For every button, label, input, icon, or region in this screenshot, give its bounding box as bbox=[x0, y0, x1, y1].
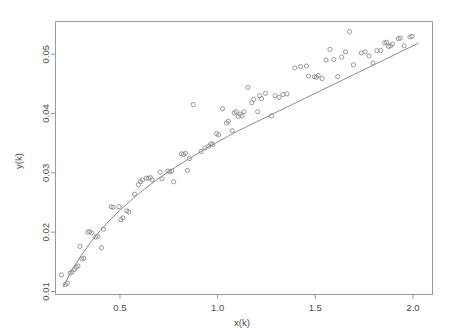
y-axis-title: y(k) bbox=[13, 153, 24, 169]
y-tick-label: 0.03 bbox=[40, 164, 51, 183]
x-axis-title: x(k) bbox=[234, 317, 250, 328]
x-tick-label: 0.5 bbox=[113, 302, 126, 313]
y-tick-label: 0.04 bbox=[40, 104, 51, 123]
x-tick-label: 2.0 bbox=[406, 302, 419, 313]
y-tick-label: 0.02 bbox=[40, 223, 51, 242]
y-tick-label: 0.05 bbox=[40, 45, 51, 64]
scatter-plot: 0.51.01.52.0 0.010.020.030.040.05 x(k) y… bbox=[0, 0, 454, 335]
chart-figure: 0.51.01.52.0 0.010.020.030.040.05 x(k) y… bbox=[0, 0, 454, 335]
x-tick-label: 1.5 bbox=[309, 302, 322, 313]
x-tick-label: 1.0 bbox=[211, 302, 224, 313]
y-tick-label: 0.01 bbox=[40, 282, 51, 301]
